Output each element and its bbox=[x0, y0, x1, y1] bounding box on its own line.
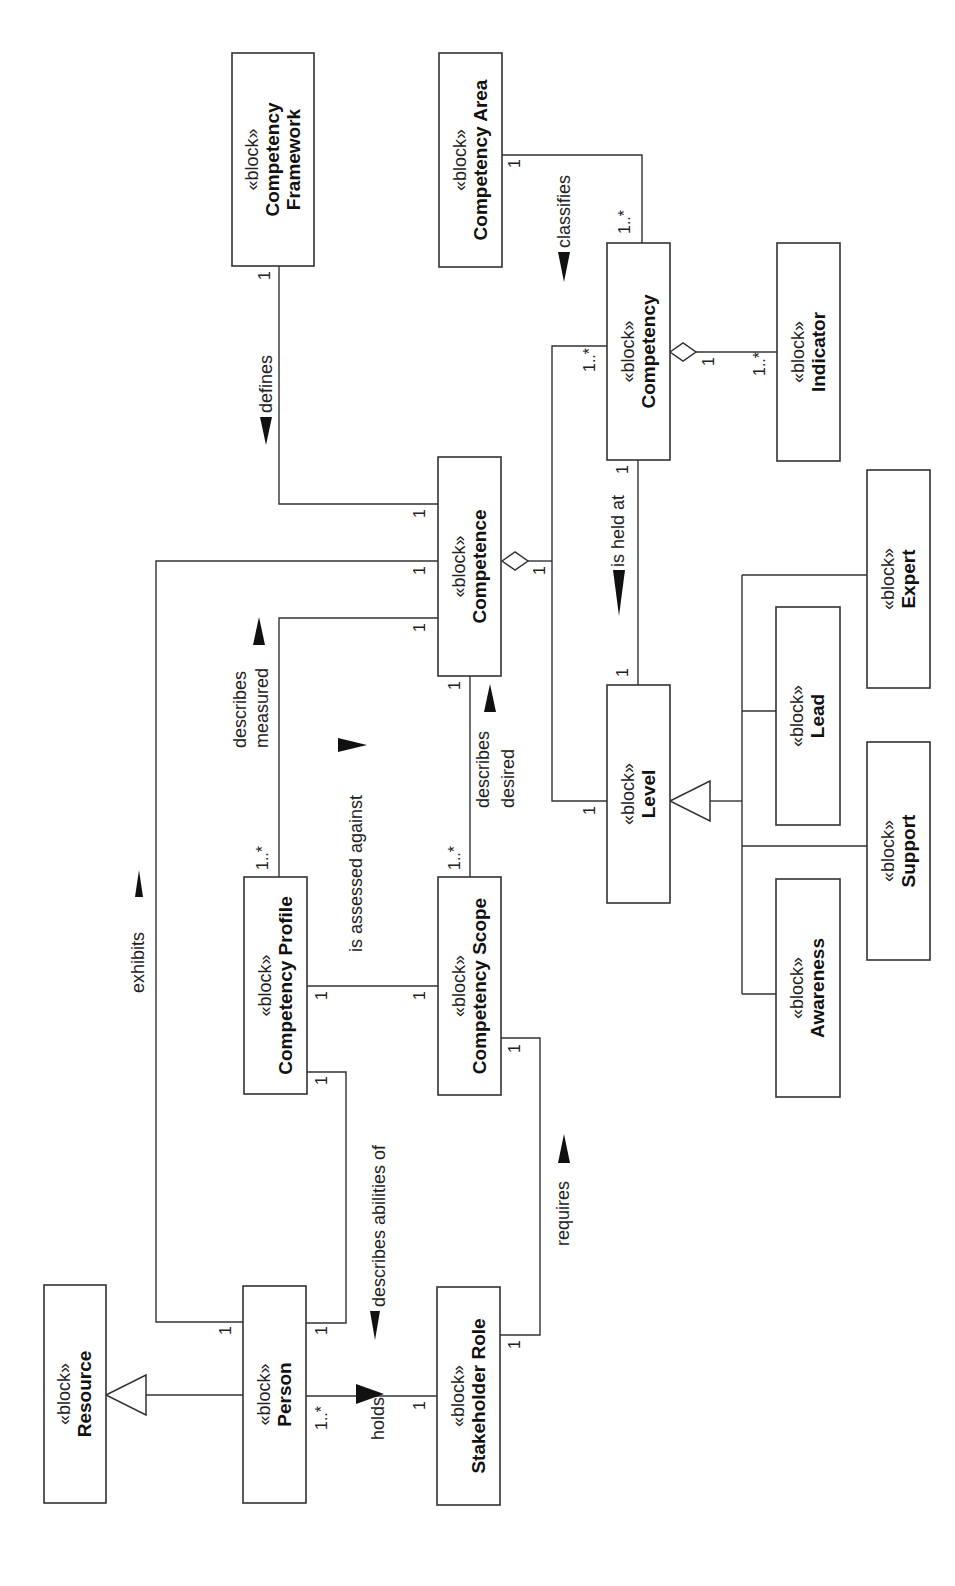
direction-arrow-icon bbox=[370, 1311, 380, 1340]
block-competency-profile[interactable]: «block»Competency Profile bbox=[244, 877, 307, 1094]
block-name: Expert bbox=[898, 549, 919, 609]
label-defines: defines bbox=[256, 355, 276, 413]
label-describes: describes bbox=[473, 731, 493, 808]
block-stereotype: «block» bbox=[450, 129, 470, 191]
block-name: Competency Area bbox=[470, 79, 491, 240]
block-competency-area[interactable]: «block»Competency Area bbox=[439, 53, 502, 267]
block-diagram: «block»Resource«block»Person«block»Stake… bbox=[0, 0, 955, 1586]
block-name: Indicator bbox=[808, 311, 829, 392]
block-name: Competency bbox=[262, 102, 283, 216]
block-name: Support bbox=[898, 814, 919, 887]
mult-aggregation-competence: 1 bbox=[531, 566, 548, 575]
direction-arrow-icon bbox=[484, 684, 496, 712]
block-name: Competency Profile bbox=[275, 896, 296, 1074]
mult-requires-role: 1 bbox=[506, 1340, 523, 1349]
mult-classifies-competency: 1..* bbox=[616, 210, 633, 234]
mult-measured-competence: 1 bbox=[411, 623, 428, 632]
label-classifies: classifies bbox=[554, 175, 574, 248]
block-stereotype: «block» bbox=[878, 548, 898, 610]
block-support[interactable]: «block»Support bbox=[867, 742, 930, 960]
generalization-triangle-icon bbox=[670, 781, 710, 821]
mult-exhibits-person: 1 bbox=[217, 1326, 234, 1335]
mult-desired-scope: 1..* bbox=[446, 846, 463, 870]
direction-arrow-icon bbox=[135, 870, 143, 897]
block-name: Competency bbox=[638, 294, 659, 408]
label-is-held-at: is held at bbox=[608, 495, 628, 567]
block-stereotype: «block» bbox=[54, 1363, 74, 1425]
direction-arrow-icon bbox=[613, 570, 625, 616]
block-name: Lead bbox=[807, 694, 828, 738]
block-stereotype: «block» bbox=[255, 954, 275, 1016]
generalization-triangle-icon bbox=[106, 1375, 146, 1415]
block-name: Competence bbox=[469, 509, 490, 623]
block-stereotype: «block» bbox=[618, 320, 638, 382]
assoc-describes-abilities-line[interactable] bbox=[306, 1072, 346, 1323]
direction-arrow-icon bbox=[558, 1134, 570, 1163]
direction-arrow-icon bbox=[558, 252, 570, 282]
mult-assessed-profile: 1 bbox=[313, 991, 330, 1000]
block-expert[interactable]: «block»Expert bbox=[867, 470, 930, 688]
block-person[interactable]: «block»Person bbox=[243, 1286, 306, 1503]
mult-abilities-person: 1 bbox=[313, 1326, 330, 1335]
block-lead[interactable]: «block»Lead bbox=[776, 607, 840, 825]
label-requires: requires bbox=[553, 1181, 573, 1246]
block-stereotype: «block» bbox=[788, 321, 808, 383]
mult-held-at-level: 1 bbox=[614, 668, 631, 677]
block-name: Stakeholder Role bbox=[468, 1318, 489, 1473]
aggregation-competence-competency-line[interactable] bbox=[552, 346, 607, 561]
mult-desired-competence: 1 bbox=[446, 681, 463, 690]
block-name: Framework bbox=[283, 108, 304, 210]
block-resource[interactable]: «block»Resource bbox=[44, 1285, 106, 1503]
mult-aggregation-level: 1 bbox=[581, 806, 598, 815]
block-stereotype: «block» bbox=[449, 955, 469, 1017]
block-competency[interactable]: «block»Competency bbox=[607, 243, 670, 460]
association-labels: holds exhibits describes abilities of re… bbox=[128, 175, 628, 1440]
aggregation-diamond-icon bbox=[670, 343, 696, 361]
block-name: Level bbox=[638, 770, 659, 819]
mult-classifies-area: 1 bbox=[506, 159, 523, 168]
mult-measured-profile: 1..* bbox=[254, 846, 271, 870]
direction-arrow-icon bbox=[260, 417, 272, 445]
mult-defines-competence: 1 bbox=[411, 509, 428, 518]
label-measured: measured bbox=[252, 668, 272, 748]
assoc-defines-line[interactable] bbox=[279, 266, 438, 504]
label-describes-abilities-of: describes abilities of bbox=[369, 1144, 389, 1307]
block-competency-scope[interactable]: «block»Competency Scope bbox=[438, 877, 501, 1095]
block-name: Competency Scope bbox=[469, 898, 490, 1074]
direction-arrow-icon bbox=[253, 617, 265, 645]
block-stereotype: «block» bbox=[878, 820, 898, 882]
block-stereotype: «block» bbox=[449, 535, 469, 597]
mult-assessed-scope: 1 bbox=[411, 991, 428, 1000]
block-stereotype: «block» bbox=[787, 685, 807, 747]
mult-requires-scope: 1 bbox=[506, 1044, 523, 1053]
mult-indicator-whole: 1 bbox=[700, 357, 717, 366]
block-awareness[interactable]: «block»Awareness bbox=[776, 879, 840, 1097]
label-exhibits: exhibits bbox=[128, 932, 148, 993]
assoc-requires-line[interactable] bbox=[500, 1038, 540, 1335]
mult-held-at-competency: 1 bbox=[614, 465, 631, 474]
block-competency-framework[interactable]: «block»CompetencyFramework bbox=[232, 53, 314, 266]
mult-defines-framework: 1 bbox=[256, 271, 273, 280]
label-desired: desired bbox=[498, 749, 518, 808]
block-stereotype: «block» bbox=[448, 1365, 468, 1427]
mult-holds-role: 1 bbox=[411, 1401, 428, 1410]
mult-exhibits-competence: 1 bbox=[411, 566, 428, 575]
mult-abilities-profile: 1 bbox=[313, 1076, 330, 1085]
label-holds: holds bbox=[368, 1397, 388, 1440]
block-stereotype: «block» bbox=[787, 957, 807, 1019]
block-name: Person bbox=[274, 1362, 295, 1426]
aggregation-diamond-icon bbox=[502, 552, 528, 570]
block-name: Resource bbox=[74, 1351, 95, 1438]
block-name: Awareness bbox=[807, 938, 828, 1038]
block-stereotype: «block» bbox=[618, 763, 638, 825]
direction-arrow-icon bbox=[338, 738, 367, 752]
aggregation-competence-level-line[interactable] bbox=[552, 561, 607, 801]
block-level[interactable]: «block»Level bbox=[607, 685, 670, 903]
block-stakeholder-role[interactable]: «block»Stakeholder Role bbox=[437, 1287, 500, 1505]
label-is-assessed-against: is assessed against bbox=[346, 795, 366, 952]
label-describes: describes bbox=[230, 671, 250, 748]
mult-aggregation-competency: 1..* bbox=[581, 348, 598, 372]
block-indicator[interactable]: «block»Indicator bbox=[777, 243, 840, 461]
mult-holds-person: 1..* bbox=[313, 1406, 330, 1430]
block-competence[interactable]: «block»Competence bbox=[438, 457, 501, 676]
